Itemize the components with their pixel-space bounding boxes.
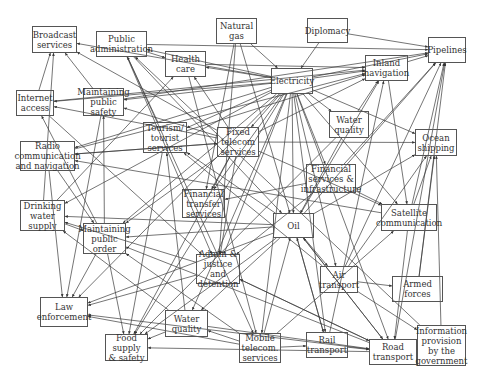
node-broadcast: Broadcast services [32, 26, 77, 53]
node-drinking-water: Drinking water supply [20, 200, 65, 231]
edge-admin_justice-to-law_enforcement [88, 275, 196, 305]
edge-radio-to-law_enforcement [49, 171, 62, 297]
edge-electricity-to-oil [292, 94, 293, 213]
edge-public_admin-to-pipelines [147, 44, 428, 49]
edge-water_quality_top-to-inland_nav [358, 81, 378, 111]
node-financial-transfer: Financial transfer services [182, 189, 225, 218]
node-admin-justice: Admin & justice and detention [196, 254, 240, 284]
node-internet: Internet access [16, 90, 54, 116]
node-natural-gas: Natural gas [216, 18, 257, 44]
node-inland-nav: Inland navigation [365, 55, 408, 81]
edge-drinking_water-to-broadcast [44, 53, 54, 200]
node-air-transport: Air transport [320, 266, 358, 293]
node-public-admin: Public administration [96, 31, 147, 57]
node-water-quality-bottom: Water quality [165, 310, 208, 337]
edge-mobile_telecom-to-oil [264, 238, 290, 333]
node-tourism: Tourism/ tourist services [143, 122, 187, 153]
edge-internet-to-broadcast [39, 53, 50, 90]
node-public-order: Maintaining public order [83, 223, 126, 254]
node-fixed-telecom: Fixed telecom services [217, 127, 259, 157]
edge-public_order-to-food_supply [108, 254, 124, 334]
edge-diplomacy-to-pipelines [348, 34, 428, 47]
node-oil: Oil [273, 213, 314, 238]
edge-natural_gas-to-electricity [251, 44, 278, 68]
edge-diplomacy-to-electricity [301, 43, 319, 68]
node-mobile-telecom: Mobile telecom. services [239, 333, 281, 363]
edge-inland_nav-to-pipelines [408, 56, 428, 62]
node-satellite: Satellite communication [381, 204, 437, 231]
diagram-canvas: Broadcast servicesPublic administrationN… [0, 0, 482, 378]
node-pipelines: Pipelines [428, 37, 466, 63]
node-water-quality-top: Water quality [329, 111, 369, 138]
edge-water_quality_bottom-to-food_supply [148, 332, 165, 339]
node-financial-infra: Financial services & infrastructure [306, 164, 356, 193]
node-law-enforcement: Law enforcement [40, 297, 88, 327]
node-ocean-shipping: Ocean shipping [415, 129, 457, 156]
node-diplomacy: Diplomacy [307, 18, 348, 43]
node-armed-forces: Armed forces [392, 276, 443, 302]
node-road-transport: Road transport [369, 339, 417, 365]
node-radio: Radio communication and navigation [20, 141, 75, 171]
edge-mobile_telecom-to-rail_transport [281, 346, 306, 347]
node-rail-transport: Rail transport [306, 332, 348, 358]
edge-road_transport-to-public_order [126, 247, 369, 343]
edge-financial_infra-to-financial_transfer [225, 183, 306, 199]
edge-public_order-to-law_enforcement [72, 254, 96, 297]
edge-electricity-to-health_care [206, 67, 271, 77]
edge-public_order-to-public_safety [104, 116, 105, 223]
node-health-care: Health care [165, 51, 206, 77]
node-electricity: Electricity [271, 68, 313, 94]
node-food-supply: Food supply & safety [105, 334, 148, 361]
node-info-gov: Information provision by the government [417, 325, 466, 366]
node-public-safety: Maintaining public safety [83, 88, 124, 116]
